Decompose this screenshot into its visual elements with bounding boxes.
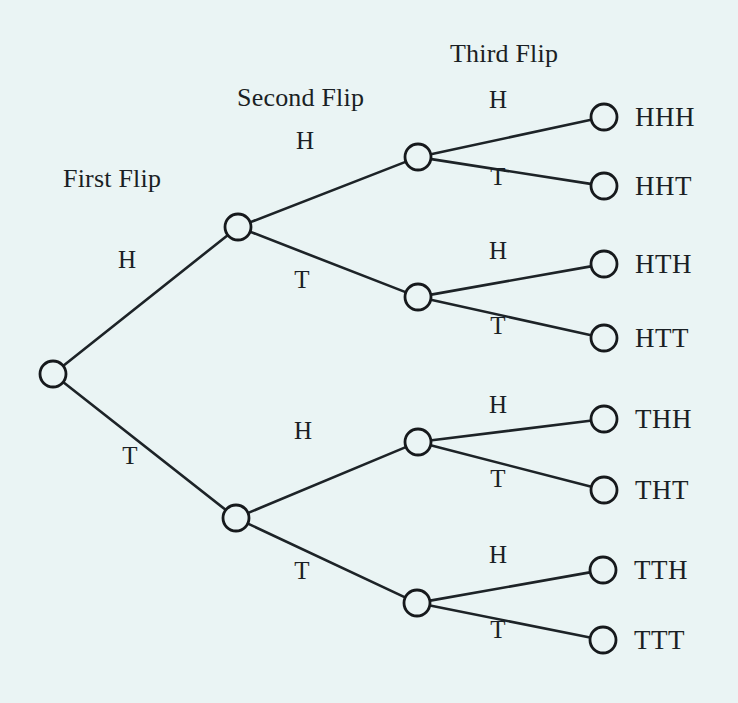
node-hth[interactable] [591, 251, 617, 277]
outcome-label-hht: HHT [635, 173, 692, 200]
node-thh[interactable] [591, 406, 617, 432]
edge-tt-to-tth [429, 572, 591, 601]
edge-label-h-hh: H [296, 128, 314, 153]
edge-ht-to-htt [430, 300, 593, 336]
edge-th-to-tht [430, 445, 593, 487]
edge-t-to-th [247, 447, 407, 514]
stage-title-third-flip: Third Flip [450, 41, 558, 67]
edge-h-to-hh [249, 161, 407, 222]
node-root[interactable] [40, 361, 66, 387]
edge-root-to-t [62, 381, 226, 510]
edge-label-ht-hth: H [489, 238, 507, 263]
tree-diagram-canvas: First FlipSecond FlipThird Flip HTHTHTHT… [0, 0, 738, 703]
node-tth[interactable] [590, 557, 616, 583]
edge-t-to-tt [247, 523, 406, 598]
edge-root-to-h [62, 234, 228, 366]
edge-label-tt-tth: H [489, 542, 507, 567]
edge-label-t-th: H [294, 418, 312, 443]
edge-label-root-t: T [122, 443, 137, 468]
edge-label-hh-hhh: H [489, 87, 507, 112]
edge-tt-to-ttt [429, 605, 591, 637]
node-ttt[interactable] [590, 627, 616, 653]
edge-ht-to-hth [430, 266, 592, 295]
node-th[interactable] [405, 429, 431, 455]
edge-label-th-tht: T [490, 466, 505, 491]
node-hh[interactable] [405, 144, 431, 170]
edge-label-hh-hht: T [490, 164, 505, 189]
edges-group [62, 120, 592, 638]
outcome-label-tht: THT [635, 477, 689, 504]
outcome-label-tth: TTH [634, 557, 688, 584]
node-ht[interactable] [405, 284, 431, 310]
edge-th-to-thh [430, 420, 592, 440]
tree-graphics [0, 0, 738, 703]
edge-label-th-thh: H [489, 392, 507, 417]
node-hht[interactable] [591, 173, 617, 199]
stage-title-first-flip: First Flip [63, 166, 161, 192]
node-hhh[interactable] [591, 104, 617, 130]
edge-label-t-tt: T [294, 558, 309, 583]
edge-h-to-ht [249, 231, 407, 292]
edge-label-root-h: H [118, 247, 136, 272]
node-tht[interactable] [591, 477, 617, 503]
stage-title-second-flip: Second Flip [237, 85, 364, 111]
edge-label-ht-htt: T [490, 313, 505, 338]
outcome-label-hhh: HHH [635, 104, 695, 131]
outcome-label-htt: HTT [635, 325, 689, 352]
node-h[interactable] [225, 214, 251, 240]
node-tt[interactable] [404, 590, 430, 616]
outcome-label-thh: THH [635, 406, 692, 433]
node-t[interactable] [223, 505, 249, 531]
node-htt[interactable] [591, 325, 617, 351]
edge-hh-to-hhh [430, 120, 593, 155]
edge-label-h-ht: T [294, 267, 309, 292]
edge-label-tt-ttt: T [490, 617, 505, 642]
outcome-label-hth: HTH [635, 251, 692, 278]
outcome-label-ttt: TTT [634, 627, 685, 654]
edge-hh-to-hht [430, 159, 592, 184]
